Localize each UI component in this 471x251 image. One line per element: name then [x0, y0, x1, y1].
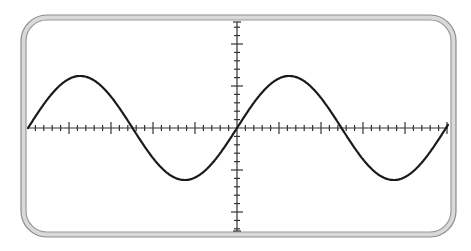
scope-canvas	[0, 0, 471, 251]
